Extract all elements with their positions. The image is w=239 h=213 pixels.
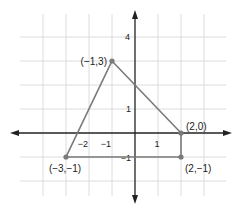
x-tick-label: −1 xyxy=(101,139,111,149)
x-axis-right-arrow-icon xyxy=(223,130,232,136)
coordinate-plane: −2 −1 1 4 1 −1 (−1,3) (2,0) (2,−1) (−3,−… xyxy=(0,0,239,213)
x-tick-label: −2 xyxy=(78,139,88,149)
vertex-point xyxy=(109,58,114,63)
x-tick-label: 1 xyxy=(154,139,159,149)
vertex-point xyxy=(63,154,68,159)
vertex-point xyxy=(178,130,183,135)
vertex-label: (−3,−1) xyxy=(49,163,81,174)
y-axis-up-arrow-icon xyxy=(132,10,138,19)
y-tick-label: 4 xyxy=(125,32,130,42)
y-axis-down-arrow-icon xyxy=(132,195,138,204)
vertex-label: (2,−1) xyxy=(185,163,211,174)
vertex-label: (−1,3) xyxy=(81,56,107,67)
vertex-label: (2,0) xyxy=(186,121,207,132)
y-tick-label: −1 xyxy=(121,153,131,163)
y-tick-label: 1 xyxy=(126,104,131,114)
vertex-point xyxy=(178,154,183,159)
x-axis-left-arrow-icon xyxy=(10,130,19,136)
